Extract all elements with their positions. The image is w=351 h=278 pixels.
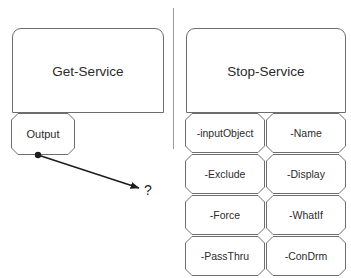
parameter-node-whatif[interactable]: -WhatIf: [266, 195, 346, 235]
parameter-shape: [185, 113, 265, 153]
unknown-target-marker: ?: [144, 183, 152, 197]
output-port-shape: [11, 113, 75, 155]
get-service-label: Get-Service: [13, 63, 163, 78]
parameter-node-condrm[interactable]: -ConDrm: [266, 236, 346, 276]
stop-service-node[interactable]: Stop-Service: [186, 28, 346, 113]
get-service-node[interactable]: Get-Service: [12, 28, 164, 113]
parameter-shape: [185, 236, 265, 276]
stop-service-label: Stop-Service: [187, 63, 345, 78]
parameter-shape: [266, 236, 346, 276]
parameter-shape: [266, 113, 346, 153]
parameter-node-force[interactable]: -Force: [185, 195, 265, 235]
parameter-shape: [266, 195, 346, 235]
parameter-node-exclude[interactable]: -Exclude: [185, 154, 265, 194]
parameter-node-display[interactable]: -Display: [266, 154, 346, 194]
parameter-shape: [266, 154, 346, 194]
parameter-shape: [185, 154, 265, 194]
parameter-shape: [185, 195, 265, 235]
output-port-node[interactable]: Output: [11, 113, 75, 155]
parameter-node-passthru[interactable]: -PassThru: [185, 236, 265, 276]
diagram-canvas: Get-Service Output Stop-Service -inputOb…: [0, 0, 351, 278]
parameter-node-name[interactable]: -Name: [266, 113, 346, 153]
output-to-unknown-connector: [38, 155, 139, 188]
panel-divider: [173, 8, 174, 149]
parameter-node-inputobject[interactable]: -inputObject: [185, 113, 265, 153]
